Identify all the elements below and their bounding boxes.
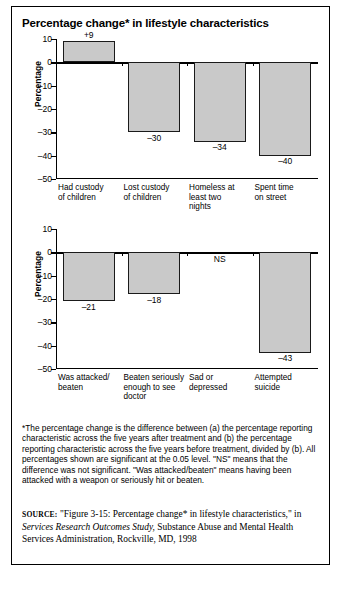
category-label: Was attacked/beaten (58, 373, 130, 392)
category-label: Attemptedsuicide (255, 373, 327, 392)
y-tick-label: 10 (26, 35, 52, 43)
bar-value-label: –30 (128, 134, 180, 143)
y-tick-label: –40 (26, 152, 52, 160)
y-tick-mark (51, 109, 56, 110)
x-tick-mark (253, 62, 254, 66)
category-label: Spent timeon street (255, 183, 327, 202)
x-axis-line-top (56, 178, 318, 179)
bar-value-label: –21 (63, 303, 115, 312)
figure-frame: Percentage change* in lifestyle characte… (11, 6, 330, 565)
y-axis-tick-labels-top: 100–10–20–30–40–50 (26, 39, 52, 179)
y-tick-label: –50 (26, 175, 52, 183)
y-tick-label: 0 (26, 248, 52, 256)
y-tick-mark (51, 322, 56, 323)
y-tick-mark (51, 39, 56, 40)
footnote-text: *The percentage change is the difference… (22, 423, 322, 485)
bar (259, 62, 311, 155)
bar-value-label: –18 (128, 296, 180, 305)
category-label: Had custodyof children (58, 183, 130, 202)
source-label: SOURCE: (22, 510, 58, 519)
y-tick-mark (51, 229, 56, 230)
y-tick-mark (51, 276, 56, 277)
x-tick-mark (122, 62, 123, 66)
bar (128, 62, 180, 132)
y-tick-label: –40 (26, 342, 52, 350)
x-tick-mark (187, 252, 188, 256)
bar (63, 41, 115, 62)
bar-chart-top: Percentage 100–10–20–30–40–50 +9–30–34–4… (12, 39, 331, 224)
plot-area-top: +9–30–34–40 (56, 39, 318, 179)
y-tick-mark (51, 156, 56, 157)
x-axis-line-bottom (56, 368, 318, 369)
y-tick-mark (51, 346, 56, 347)
y-tick-mark (51, 299, 56, 300)
bar (128, 252, 180, 294)
y-tick-label: –50 (26, 365, 52, 373)
bar-value-label: NS (194, 255, 246, 264)
bar (259, 252, 311, 352)
y-tick-label: –10 (26, 272, 52, 280)
category-label: Homeless atleast twonights (189, 183, 261, 212)
category-label: Sad ordepressed (189, 373, 261, 392)
y-tick-mark (51, 179, 56, 180)
y-tick-label: 0 (26, 58, 52, 66)
figure-title: Percentage change* in lifestyle characte… (22, 17, 269, 29)
y-tick-mark (51, 86, 56, 87)
source-part-1: "Figure 3-15: Percentage change* in life… (58, 509, 302, 519)
plot-area-bottom: –21–18NS–43 (56, 229, 318, 369)
y-tick-mark (51, 369, 56, 370)
category-label: Beaten seriouslyenough to seedoctor (124, 373, 196, 402)
x-tick-mark (122, 252, 123, 256)
y-tick-mark (51, 132, 56, 133)
bar-value-label: –43 (259, 354, 311, 363)
source-citation: SOURCE: "Figure 3-15: Percentage change*… (22, 508, 322, 546)
y-tick-label: –30 (26, 128, 52, 136)
y-tick-label: 10 (26, 225, 52, 233)
x-tick-mark (253, 252, 254, 256)
x-tick-mark (187, 62, 188, 66)
y-tick-label: –30 (26, 318, 52, 326)
bar (194, 62, 246, 141)
category-label: Lost custodyof children (124, 183, 196, 202)
bar-value-label: –34 (194, 143, 246, 152)
y-axis-line-top (56, 39, 57, 179)
bar-value-label: –40 (259, 157, 311, 166)
y-axis-line-bottom (56, 229, 57, 369)
bar-chart-bottom: Percentage 100–10–20–30–40–50 –21–18NS–4… (12, 229, 331, 414)
y-axis-tick-labels-bottom: 100–10–20–30–40–50 (26, 229, 52, 369)
bar (63, 252, 115, 301)
y-tick-label: –20 (26, 105, 52, 113)
y-tick-label: –20 (26, 295, 52, 303)
y-tick-label: –10 (26, 82, 52, 90)
bar-value-label: +9 (63, 31, 115, 40)
source-publication-title: Services Research Outcomes Study, (22, 522, 155, 532)
